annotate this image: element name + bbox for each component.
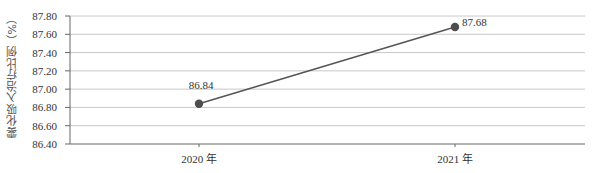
y-tick-label: 86.60	[32, 120, 57, 132]
x-tick-label: 2020 年	[181, 152, 217, 165]
data-series: 86.8487.68	[189, 16, 488, 108]
line-chart: 86.4086.6086.8087.0087.2087.4087.6087.80…	[0, 0, 595, 173]
y-tick-label: 87.40	[32, 47, 57, 59]
data-point-marker	[451, 23, 459, 31]
x-tick-label: 2021 年	[437, 152, 473, 165]
gridlines	[70, 16, 585, 126]
y-tick-label: 87.60	[32, 28, 57, 40]
y-tick-label: 87.80	[32, 10, 57, 22]
y-tick-label: 86.80	[32, 101, 57, 113]
y-tick-label: 86.40	[32, 138, 57, 150]
data-point-marker	[195, 100, 203, 108]
y-axis-ticks: 86.4086.6086.8087.0087.2087.4087.6087.80	[32, 10, 70, 150]
data-label: 86.84	[189, 79, 214, 91]
x-axis-ticks: 2020 年2021 年	[181, 144, 473, 165]
series-line	[199, 27, 455, 104]
y-tick-label: 87.20	[32, 65, 57, 77]
data-label: 87.68	[462, 16, 487, 28]
y-tick-label: 87.00	[32, 83, 57, 95]
